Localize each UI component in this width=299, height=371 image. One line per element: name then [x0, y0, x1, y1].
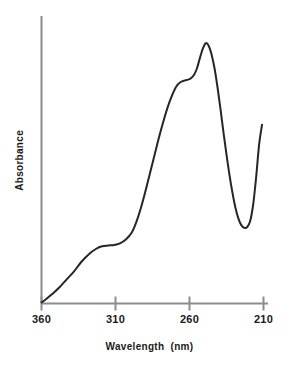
x-tick-label: 260: [180, 313, 199, 325]
absorbance-spectrum-chart: 360310260210 Absorbance Wavelength (nm): [0, 0, 299, 371]
spectrum-curve: [42, 43, 263, 302]
y-axis-title: Absorbance: [14, 130, 25, 191]
x-axis-title: Wavelength (nm): [0, 341, 299, 352]
x-tick-label: 360: [32, 313, 51, 325]
axes-group: [41, 16, 268, 304]
x-tick-label: 210: [254, 313, 273, 325]
x-tick-label: 310: [106, 313, 125, 325]
